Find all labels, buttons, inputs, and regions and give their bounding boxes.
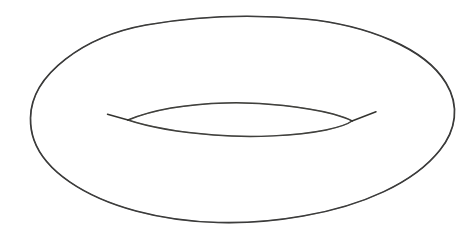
torus-figure-canvas: Torus xyxy=(0,0,475,239)
drawing-background xyxy=(0,0,475,239)
torus-drawing xyxy=(0,0,475,239)
